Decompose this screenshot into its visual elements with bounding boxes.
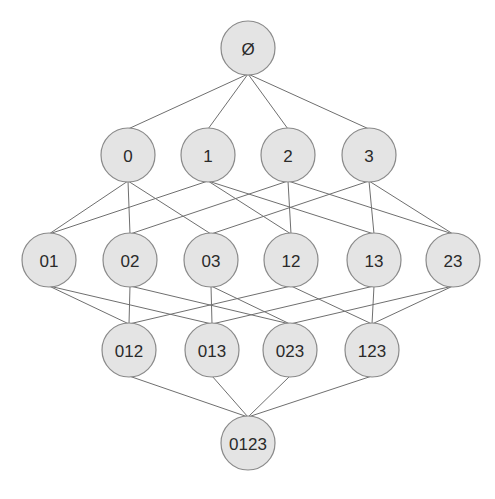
- node-label: 023: [276, 342, 304, 361]
- node-02: 02: [103, 233, 157, 287]
- edge-empty-1: [208, 74, 248, 129]
- node-label: 013: [198, 342, 226, 361]
- edge-023-0123: [248, 376, 290, 417]
- edge-3-23: [369, 181, 453, 234]
- node-1: 1: [181, 128, 235, 182]
- node-0: 0: [101, 128, 155, 182]
- node-label: 01: [40, 252, 59, 271]
- node-empty: Ø: [221, 21, 275, 75]
- edge-2-02: [130, 181, 288, 234]
- node-23: 23: [426, 233, 480, 287]
- edge-03-023: [211, 286, 290, 324]
- edge-02-012: [129, 286, 130, 324]
- edge-23-123: [372, 286, 453, 324]
- node-01: 01: [22, 233, 76, 287]
- node-label: 12: [282, 252, 301, 271]
- node-label: 123: [358, 342, 386, 361]
- edge-23-023: [290, 286, 453, 324]
- edge-empty-0: [128, 74, 248, 129]
- node-label: 1: [203, 147, 212, 166]
- edge-0-01: [49, 181, 128, 234]
- node-13: 13: [347, 233, 401, 287]
- node-0123: 0123: [221, 416, 275, 470]
- hasse-diagram: Ø01230102031213230120130231230123: [0, 0, 495, 499]
- edge-2-23: [288, 181, 453, 234]
- node-label: 2: [283, 147, 292, 166]
- node-03: 03: [184, 233, 238, 287]
- edge-1-12: [208, 181, 291, 234]
- node-12: 12: [264, 233, 318, 287]
- edge-01-012: [49, 286, 129, 324]
- node-label: 3: [364, 147, 373, 166]
- node-label: Ø: [241, 40, 254, 59]
- edge-12-123: [291, 286, 372, 324]
- node-2: 2: [261, 128, 315, 182]
- node-013: 013: [185, 323, 239, 377]
- node-label: 23: [444, 252, 463, 271]
- node-label: 03: [202, 252, 221, 271]
- nodes-layer: Ø01230102031213230120130231230123: [22, 21, 480, 470]
- edge-123-0123: [248, 376, 372, 417]
- edge-empty-3: [248, 74, 369, 129]
- node-label: 012: [115, 342, 143, 361]
- edge-01-013: [49, 286, 212, 324]
- node-012: 012: [102, 323, 156, 377]
- node-label: 02: [121, 252, 140, 271]
- edge-13-013: [212, 286, 374, 324]
- node-label: 13: [365, 252, 384, 271]
- node-023: 023: [263, 323, 317, 377]
- node-123: 123: [345, 323, 399, 377]
- edge-empty-2: [248, 74, 288, 129]
- node-label: 0123: [229, 435, 267, 454]
- edge-3-03: [211, 181, 369, 234]
- node-3: 3: [342, 128, 396, 182]
- node-label: 0: [123, 147, 132, 166]
- edge-0-03: [128, 181, 211, 234]
